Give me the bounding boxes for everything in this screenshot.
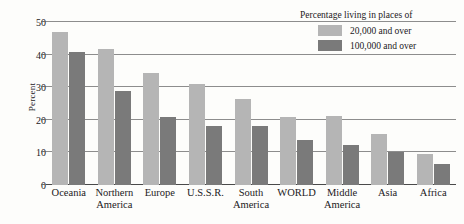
bar[interactable]	[115, 91, 131, 185]
bar[interactable]	[189, 84, 205, 185]
legend-item[interactable]: 20,000 and over	[318, 25, 460, 36]
legend: Percentage living in places of 20,000 an…	[300, 10, 460, 55]
legend-label: 100,000 and over	[350, 41, 416, 51]
legend-entries: 20,000 and over100,000 and over	[300, 25, 460, 51]
y-tick-label-50: 50	[20, 17, 46, 28]
bar[interactable]	[417, 154, 433, 185]
x-axis-label: Africa	[393, 187, 464, 199]
bar-group	[52, 22, 85, 185]
legend-item[interactable]: 100,000 and over	[318, 40, 460, 51]
bar[interactable]	[160, 117, 176, 185]
bar[interactable]	[98, 49, 114, 185]
y-tick-label-30: 30	[20, 82, 46, 93]
bar[interactable]	[326, 116, 342, 185]
bar-chart: Percent 01020304050 OceaniaNorthernAmeri…	[0, 0, 464, 224]
y-tick-label-40: 40	[20, 50, 46, 61]
bar[interactable]	[252, 126, 268, 185]
x-axis-labels: OceaniaNorthernAmericaEuropeU.S.S.R.Sout…	[46, 187, 456, 223]
legend-title: Percentage living in places of	[300, 10, 460, 20]
bar-group	[98, 22, 131, 185]
bar-group	[143, 22, 176, 185]
bar[interactable]	[143, 73, 159, 185]
y-tick-label-20: 20	[20, 115, 46, 126]
bar[interactable]	[371, 134, 387, 185]
bar-group	[189, 22, 222, 185]
y-axis-ticks: 01020304050	[12, 22, 46, 185]
bar[interactable]	[69, 52, 85, 185]
y-tick-label-10: 10	[20, 147, 46, 158]
bar[interactable]	[388, 152, 404, 185]
legend-swatch-icon	[318, 25, 342, 36]
bar[interactable]	[280, 117, 296, 185]
bar[interactable]	[235, 99, 251, 185]
bar[interactable]	[434, 164, 450, 185]
bar[interactable]	[343, 145, 359, 185]
bar[interactable]	[297, 140, 313, 185]
bar[interactable]	[52, 32, 68, 185]
bar[interactable]	[206, 126, 222, 185]
legend-label: 20,000 and over	[350, 26, 411, 36]
legend-swatch-icon	[318, 40, 342, 51]
bar-group	[235, 22, 268, 185]
